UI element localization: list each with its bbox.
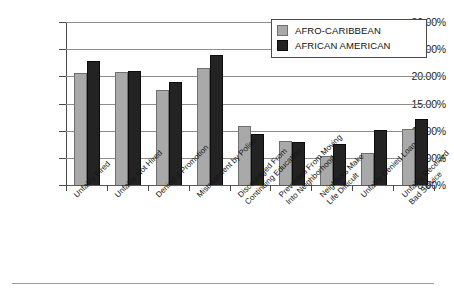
- legend-item-african-american: AFRICAN AMERICAN: [277, 38, 421, 53]
- legend-label-african-american: AFRICAN AMERICAN: [295, 40, 391, 51]
- x-axis-tick-mark: [107, 185, 108, 191]
- x-axis-tick-mark: [311, 185, 312, 191]
- footer-divider: [12, 283, 434, 284]
- legend-label-afro-caribbean: AFRO-CARIBBEAN: [295, 25, 381, 36]
- x-axis-tick-mark: [393, 185, 394, 191]
- bar-group: [197, 22, 223, 185]
- x-axis-tick-mark: [270, 185, 271, 191]
- bar-group: [156, 22, 182, 185]
- bar-afro: [156, 90, 169, 185]
- bar-afro: [115, 72, 128, 185]
- legend-swatch-icon-afro-caribbean: [277, 25, 288, 36]
- bar-afro: [197, 68, 210, 185]
- x-axis-tick-mark: [148, 185, 149, 191]
- bar-group: [115, 22, 141, 185]
- chart-legend: AFRO-CARIBBEAN AFRICAN AMERICAN: [271, 19, 427, 58]
- x-axis-tick-mark: [66, 185, 67, 191]
- legend-item-afro-caribbean: AFRO-CARIBBEAN: [277, 23, 421, 38]
- bar-afro: [74, 73, 87, 185]
- legend-swatch-icon-african-american: [277, 40, 288, 51]
- bar-group: [74, 22, 100, 185]
- x-axis-tick-mark: [230, 185, 231, 191]
- x-axis-tick-mark: [434, 185, 435, 191]
- x-axis-tick-mark: [352, 185, 353, 191]
- x-axis-tick-mark: [189, 185, 190, 191]
- bar-group: [238, 22, 264, 185]
